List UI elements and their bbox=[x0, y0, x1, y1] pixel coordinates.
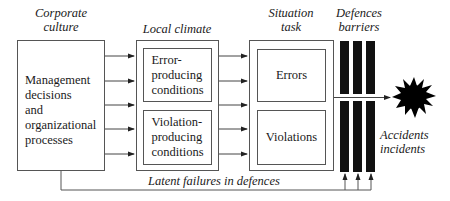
heading-corporate-culture: Corporate culture bbox=[2, 6, 120, 34]
errors-label: Errors bbox=[276, 68, 307, 83]
violation-producing-conditions-box: Violation- producing conditions bbox=[143, 110, 212, 165]
heading-line: task bbox=[249, 20, 333, 34]
text-line: and bbox=[25, 103, 96, 118]
latent-failures-label: Latent failures in defences bbox=[148, 174, 348, 188]
violations-box: Violations bbox=[257, 110, 326, 165]
errors-box: Errors bbox=[257, 49, 326, 102]
defence-barriers bbox=[340, 41, 375, 172]
violations-label: Violations bbox=[266, 130, 317, 145]
heading-line: Corporate bbox=[2, 6, 120, 20]
heading-situation-task: Situation task bbox=[249, 6, 333, 34]
management-box: Management decisions and organizational … bbox=[17, 40, 105, 171]
error-producing-conditions-box: Error- producing conditions bbox=[143, 48, 212, 102]
text-line: conditions bbox=[151, 83, 203, 98]
text-line: Accidents bbox=[380, 128, 448, 142]
accidents-incidents-label: Accidents incidents bbox=[380, 128, 448, 156]
situation-task-box: Errors Violations bbox=[249, 40, 334, 171]
text-line: Error- bbox=[151, 53, 203, 68]
text-line: processes bbox=[25, 133, 96, 148]
error-producing-text: Error- producing conditions bbox=[151, 53, 203, 98]
violation-producing-text: Violation- producing conditions bbox=[151, 115, 203, 160]
heading-line: Situation bbox=[249, 6, 333, 20]
local-climate-box: Error- producing conditions Violation- p… bbox=[136, 40, 219, 171]
heading-line: culture bbox=[2, 20, 120, 34]
heading-line: barriers bbox=[330, 20, 388, 34]
heading-line: Defences bbox=[330, 6, 388, 20]
management-text: Management decisions and organizational … bbox=[25, 73, 96, 148]
text-line: organizational bbox=[25, 118, 96, 133]
text-line: decisions bbox=[25, 88, 96, 103]
heading-defences-barriers: Defences barriers bbox=[330, 6, 388, 34]
text-line: incidents bbox=[380, 142, 448, 156]
text-line: Management bbox=[25, 73, 96, 88]
text-line: producing bbox=[151, 68, 203, 83]
explosion-starburst-icon bbox=[392, 77, 436, 118]
text-line: producing bbox=[151, 130, 203, 145]
arrows-local-to-situation bbox=[218, 56, 247, 154]
heading-local-climate: Local climate bbox=[136, 22, 218, 36]
text-line: Violation- bbox=[151, 115, 203, 130]
arrows-corporate-to-local bbox=[104, 56, 134, 154]
text-line: conditions bbox=[151, 145, 203, 160]
